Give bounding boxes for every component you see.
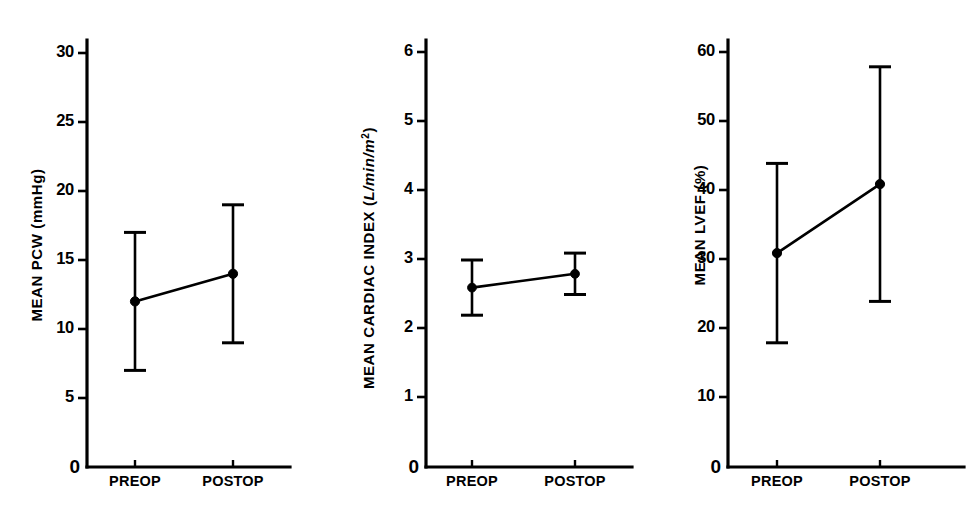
data-point-preop (468, 283, 477, 292)
y-tick-label-50: 50 (697, 110, 715, 128)
data-point-postop (228, 269, 237, 278)
y-tick-label-60: 60 (697, 41, 715, 59)
data-point-postop (571, 269, 580, 278)
y-tick-label-10: 10 (56, 318, 74, 336)
y-tick-label-3: 3 (404, 248, 413, 266)
series-connector (777, 184, 880, 253)
y-tick-label-5: 5 (404, 110, 413, 128)
series-connector (135, 274, 233, 302)
y-tick-label-30: 30 (697, 248, 715, 266)
y-tick-label-10: 10 (697, 386, 715, 404)
series-connector (472, 274, 575, 288)
y-tick-label-6: 6 (404, 41, 413, 59)
y-tick-label-1: 1 (404, 386, 413, 404)
x-tick-label-postop: POSTOP (202, 473, 263, 489)
y-tick-label-25: 25 (56, 111, 74, 129)
y-tick-label-4: 4 (404, 179, 414, 197)
y-axis-title-suffix: ) (360, 127, 377, 133)
panel-mean-pcw: MEAN PCW (mmHg) 30 25 20 15 10 5 0 PREOP… (0, 0, 326, 522)
y-tick-label-20: 20 (56, 180, 74, 198)
x-tick-label-preop: PREOP (109, 473, 161, 489)
y-tick-label-40: 40 (697, 179, 715, 197)
x-tick-label-postop: POSTOP (544, 473, 605, 489)
y-axis-title-prefix: MEAN CARDIAC INDEX ( (360, 200, 377, 389)
y-tick-label-20: 20 (697, 317, 715, 335)
y-axis-title: MEAN PCW (mmHg) (28, 168, 45, 321)
x-tick-label-postop: POSTOP (849, 473, 910, 489)
y-tick-label-0: 0 (69, 456, 80, 477)
y-tick-label-15: 15 (56, 249, 74, 267)
x-tick-label-preop: PREOP (446, 473, 498, 489)
y-tick-label-2: 2 (404, 317, 413, 335)
x-tick-label-preop: PREOP (751, 473, 803, 489)
figure-multipanel-errorbar-chart: MEAN PCW (mmHg) 30 25 20 15 10 5 0 PREOP… (0, 0, 974, 522)
y-tick-label-5: 5 (65, 387, 74, 405)
data-point-preop (130, 297, 139, 306)
y-tick-label-0: 0 (710, 456, 721, 477)
y-tick-label-30: 30 (56, 42, 74, 60)
y-axis-title-unit: L/min/m (360, 139, 377, 201)
data-point-postop (875, 180, 884, 189)
data-point-preop (772, 249, 781, 258)
y-tick-label-0: 0 (408, 456, 419, 477)
y-axis-title: MEAN CARDIAC INDEX (L/min/m2) (360, 127, 378, 389)
panel-mean-lvef: MEAN LVEF (%) 60 50 40 30 20 10 0 PREOP … (646, 0, 972, 522)
panel-mean-cardiac-index: MEAN CARDIAC INDEX (L/min/m2) 6 5 4 3 2 … (322, 0, 648, 522)
